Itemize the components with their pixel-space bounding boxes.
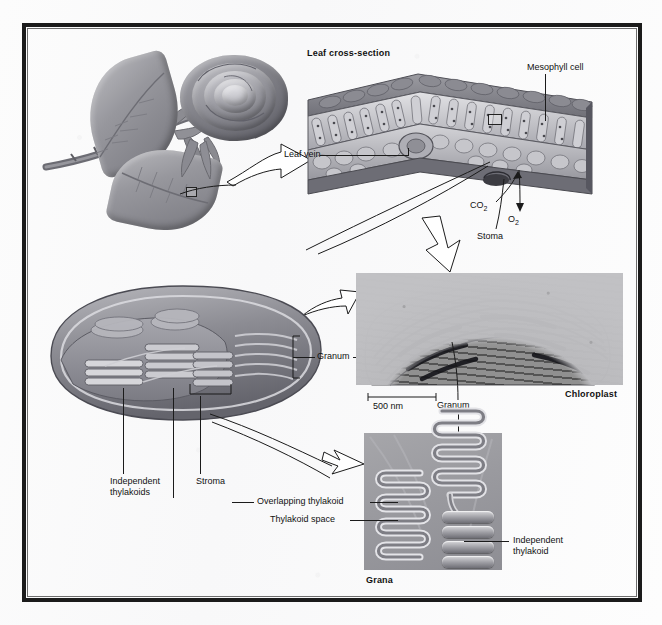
mesophyll-to-chloroplast-leaders [300, 150, 500, 260]
independent-thylakoids-line2: thylakoids [110, 487, 150, 497]
independent-thylakoid-disc [442, 556, 494, 568]
overlapping-thylakoid-leader-left [232, 502, 254, 503]
scale-bar-label: 500 nm [373, 401, 403, 412]
arrow-rose-leader [178, 182, 238, 200]
independent-thylakoid-line2: thylakoid [513, 546, 549, 556]
stroma-leader [200, 396, 201, 474]
independent-thylakoids-leader [123, 388, 124, 474]
chloroplast-caption: Chloroplast [565, 389, 617, 400]
chloroplast-electron-micrograph [356, 273, 623, 385]
independent-thylakoids-line1: Independent [110, 476, 160, 486]
micrograph-grain [356, 273, 623, 385]
thylakoid-space-label: Thylakoid space [270, 514, 335, 525]
independent-thylakoid-line1: Independent [513, 535, 563, 545]
thylakoid-space-leader [350, 520, 398, 521]
independent-thylakoid-disc [442, 541, 494, 553]
independent-thylakoids-leader-2 [173, 388, 174, 498]
figure-page: Leaf cross-section [0, 0, 662, 625]
independent-thylakoid-label: Independent thylakoid [513, 535, 591, 557]
granum-micrograph-leader-up [448, 340, 466, 402]
mesophyll-sample-marker [488, 114, 502, 125]
overlapping-thylakoid-label: Overlapping thylakoid [257, 496, 344, 507]
granum-illustration-label: Granum [317, 351, 350, 362]
overlapping-thylakoid-leader-right [370, 502, 398, 503]
arrow-chloroplast-to-grana [208, 412, 368, 494]
independent-thylakoid-leader [464, 541, 509, 542]
granum-bracket-leader [293, 357, 315, 358]
grana-caption: Grana [366, 575, 393, 586]
independent-thylakoid-disc [442, 526, 494, 538]
independent-thylakoid-disc [442, 511, 494, 523]
mesophyll-cell-leader [545, 74, 546, 121]
mesophyll-cell-label: Mesophyll cell [527, 62, 584, 73]
